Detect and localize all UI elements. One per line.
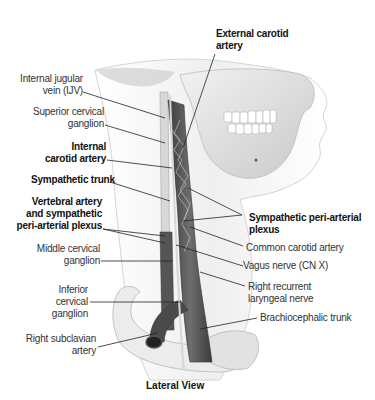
label-line: Vagus nerve (CN X) <box>243 260 328 272</box>
label-line: Brachiocephalic trunk <box>260 312 351 324</box>
label-middle-cervical-ganglion: Middle cervical ganglion <box>24 243 100 267</box>
label-line: ganglion <box>28 118 104 130</box>
label-external-carotid-artery: External carotid artery <box>216 28 288 52</box>
view-caption: Lateral View <box>146 380 204 391</box>
label-line: Middle cervical <box>24 243 100 255</box>
label-line: External carotid <box>216 28 288 40</box>
label-vagus-nerve: Vagus nerve (CN X) <box>243 260 328 272</box>
label-line: Right recurrent <box>248 281 313 293</box>
label-right-subclavian-artery: Right subclavian artery <box>20 333 96 357</box>
label-line: peri-arterial plexus <box>10 220 102 232</box>
label-line: Vertebral artery <box>10 196 102 208</box>
label-sympathetic-peri-arterial-plexus: Sympathetic peri-arterial plexus <box>249 212 361 236</box>
label-internal-carotid-artery: Internal carotid artery <box>30 141 106 165</box>
label-sympathetic-trunk: Sympathetic trunk <box>31 174 115 186</box>
label-line: Sympathetic trunk <box>31 174 115 186</box>
label-line: ganglion <box>24 255 100 267</box>
label-line: and sympathetic <box>10 208 102 220</box>
subclavian-lumen <box>146 336 162 348</box>
label-line: ganglion <box>40 308 88 320</box>
label-inferior-cervical-ganglion: Inferior cervical ganglion <box>40 284 88 320</box>
label-line: vein (IJV) <box>20 85 83 97</box>
label-internal-jugular-vein: Internal jugular vein (IJV) <box>20 73 83 97</box>
label-line: cervical <box>40 296 88 308</box>
label-line: carotid artery <box>30 153 106 165</box>
anatomy-figure: Internal jugular vein (IJV) Superior cer… <box>0 0 375 400</box>
label-line: Internal <box>30 141 106 153</box>
label-line: plexus <box>249 224 361 236</box>
label-vertebral-artery-plexus: Vertebral artery and sympathetic peri-ar… <box>10 196 102 232</box>
label-line: Sympathetic peri-arterial <box>249 212 361 224</box>
label-common-carotid-artery: Common carotid artery <box>246 242 344 254</box>
label-line: Superior cervical <box>28 106 104 118</box>
label-line: laryngeal nerve <box>248 293 313 305</box>
label-line: artery <box>20 345 96 357</box>
label-right-recurrent-laryngeal-nerve: Right recurrent laryngeal nerve <box>248 281 313 305</box>
label-brachiocephalic-trunk: Brachiocephalic trunk <box>260 312 351 324</box>
label-line: Inferior <box>40 284 88 296</box>
label-line: Common carotid artery <box>246 242 344 254</box>
label-line: artery <box>216 40 288 52</box>
label-superior-cervical-ganglion: Superior cervical ganglion <box>28 106 104 130</box>
label-line: Internal jugular <box>20 73 83 85</box>
label-line: Right subclavian <box>20 333 96 345</box>
